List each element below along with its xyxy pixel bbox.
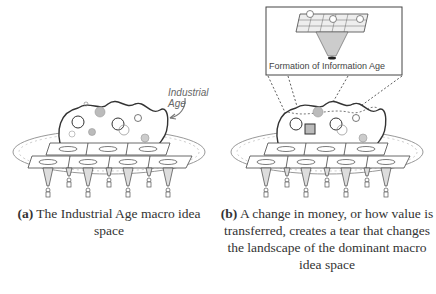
caption-a: (a) The Industrial Age macro idea space	[10, 205, 208, 239]
caption-b: (b) A change in money, or how value is t…	[218, 205, 436, 273]
caption-a-text: The Industrial Age macro idea space	[36, 206, 200, 238]
panel-information-age: Formation of Information Age (b) A chang…	[218, 0, 436, 294]
caption-b-text: A change in money, or how value is trans…	[224, 206, 433, 272]
caption-a-prefix: (a)	[17, 206, 33, 221]
inset-label: Formation of Information Age	[218, 61, 436, 71]
information-age-landscape-illustration	[218, 0, 436, 210]
caption-b-prefix: (b)	[221, 206, 238, 221]
industrial-age-annotation: Industrial Age	[168, 87, 218, 109]
panel-industrial-age: Industrial Age (a) The Industrial Age ma…	[0, 0, 218, 294]
